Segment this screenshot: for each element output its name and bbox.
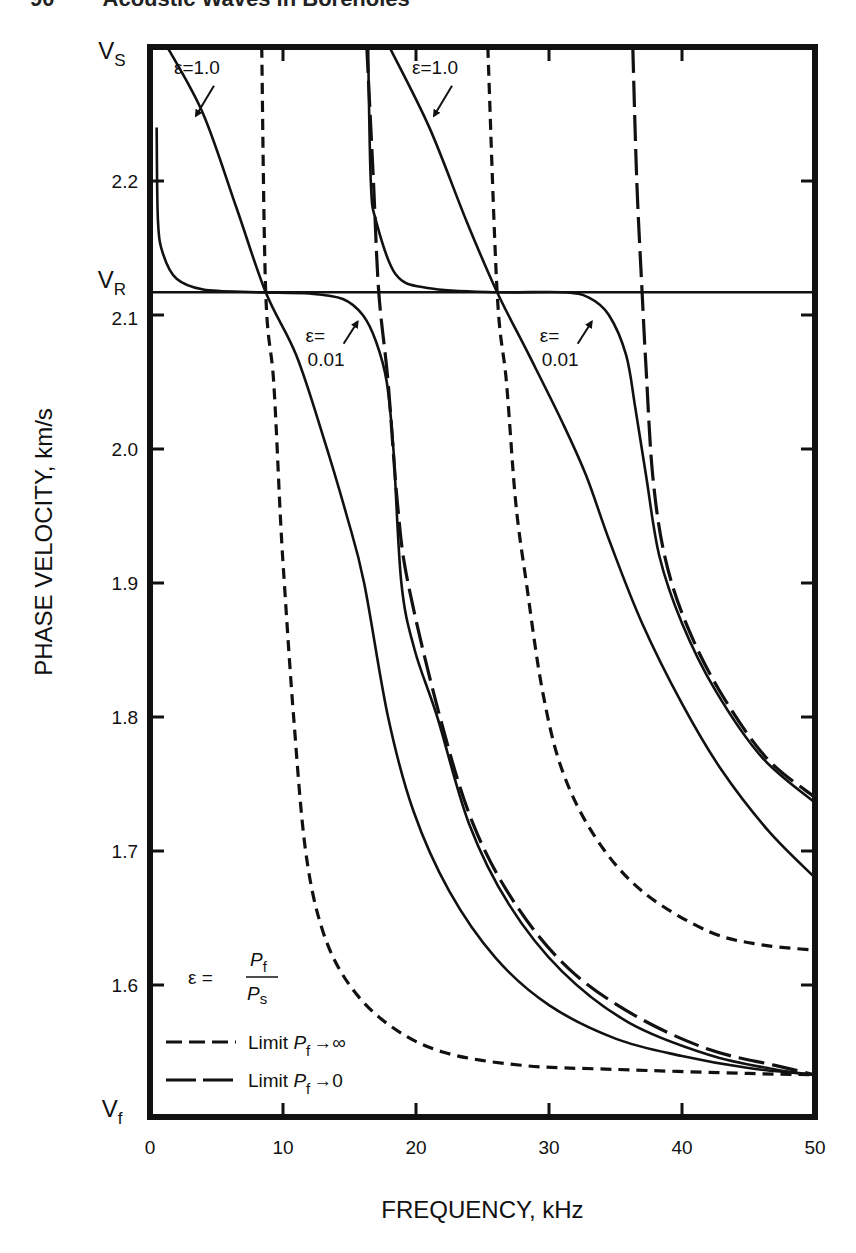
data-series-solid <box>389 47 815 878</box>
annotation-epsilon: ε= <box>306 325 326 346</box>
x-axis-title: FREQUENCY, kHz <box>381 1196 583 1223</box>
y-axis-title: PHASE VELOCITY, km/s <box>30 408 57 676</box>
annotation-arrow <box>196 86 214 116</box>
annotation-epsilon: ε=1.0 <box>174 57 220 78</box>
y-tick-label: 2.1 <box>112 308 138 329</box>
annotation-epsilon-value: 0.01 <box>308 349 345 370</box>
annotation-epsilon-value: 0.01 <box>542 349 579 370</box>
y-tick-label: 1.8 <box>112 707 138 728</box>
x-tick-label: 20 <box>405 1137 426 1158</box>
y-special-label-vf: Vf <box>102 1095 123 1128</box>
x-tick-label: 40 <box>671 1137 692 1158</box>
legend: ε =PfPsLimit Pf→∞Limit Pf→0 <box>166 949 346 1097</box>
formula-denominator: Ps <box>247 983 267 1007</box>
data-series-long-dash <box>633 47 815 797</box>
y-tick-label: 1.7 <box>112 841 138 862</box>
data-series-solid <box>368 47 815 803</box>
annotation-arrow <box>434 86 452 116</box>
y-tick-label: 1.6 <box>112 975 138 996</box>
annotation-epsilon: ε=1.0 <box>412 57 458 78</box>
phase-velocity-chart: 010203040501.61.71.81.92.02.12.2VSVRVfFR… <box>0 0 856 1253</box>
annotation-arrow <box>344 322 358 344</box>
formula-numerator: Pf <box>250 949 268 975</box>
legend-label: Limit Pf→0 <box>248 1070 343 1097</box>
x-tick-label: 10 <box>272 1137 293 1158</box>
y-tick-label: 2.2 <box>112 171 138 192</box>
y-tick-label: 2.0 <box>112 439 138 460</box>
x-tick-label: 30 <box>538 1137 559 1158</box>
legend-label: Limit Pf→∞ <box>248 1032 346 1059</box>
y-special-label-vs: VS <box>98 37 125 70</box>
data-series-long-dash <box>367 47 815 1075</box>
annotation-arrow <box>578 322 592 344</box>
data-series-short-dash <box>488 47 815 950</box>
y-special-label-vr: VR <box>98 266 126 299</box>
x-tick-label: 0 <box>145 1137 156 1158</box>
legend-epsilon-formula: ε = <box>188 967 213 988</box>
y-tick-label: 1.9 <box>112 573 138 594</box>
data-series-short-dash <box>262 47 815 1075</box>
curves-layer <box>150 47 815 1075</box>
x-tick-label: 50 <box>804 1137 825 1158</box>
annotation-epsilon: ε= <box>540 325 560 346</box>
